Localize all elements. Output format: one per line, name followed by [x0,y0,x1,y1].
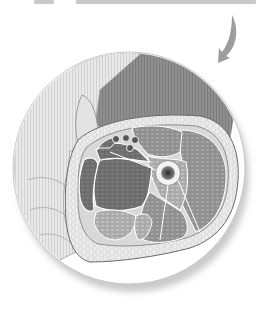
curved-arrow-icon [218,15,236,63]
vessel [127,145,134,152]
vessel [132,137,139,144]
vessel [113,136,120,143]
muscle-adductor-magnus [94,158,152,210]
vessel [123,135,130,142]
femur-marrow [161,166,175,180]
inset-content [14,50,238,262]
thigh-cross-section-illustration [0,0,265,309]
